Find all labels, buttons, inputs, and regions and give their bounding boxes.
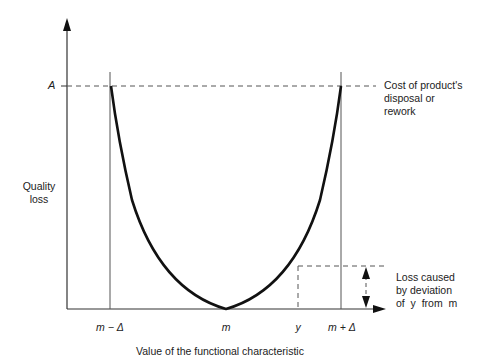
- y-tick-a: A: [48, 79, 55, 92]
- cost-line1: Cost of product's: [384, 79, 462, 92]
- loss-line2: by deviation: [396, 284, 457, 297]
- x-axis-label: Value of the functional characteristic: [90, 345, 350, 357]
- x-axis-arrow-icon: [373, 305, 386, 313]
- cost-line2: disposal or: [384, 92, 462, 105]
- loss-line1: Loss caused: [396, 271, 457, 284]
- y-axis-arrow-icon: [63, 18, 71, 31]
- loss-line3: of y from m: [396, 297, 457, 310]
- y-axis-label-line2: loss: [18, 193, 60, 206]
- arrow-up-icon: [362, 267, 370, 279]
- x-tick-upper-limit: m + Δ: [321, 321, 363, 334]
- x-tick-target: m: [216, 321, 236, 334]
- cost-line3: rework: [384, 105, 462, 118]
- x-tick-lower-limit: m − Δ: [90, 321, 130, 334]
- x-tick-value: y: [288, 321, 308, 334]
- y-axis-label: Quality loss: [18, 180, 60, 206]
- arrow-down-icon: [362, 296, 370, 308]
- loss-curve: [111, 86, 341, 309]
- cost-annotation: Cost of product's disposal or rework: [384, 79, 462, 118]
- loss-annotation: Loss caused by deviation of y from m: [396, 271, 457, 310]
- y-axis-label-line1: Quality: [18, 180, 60, 193]
